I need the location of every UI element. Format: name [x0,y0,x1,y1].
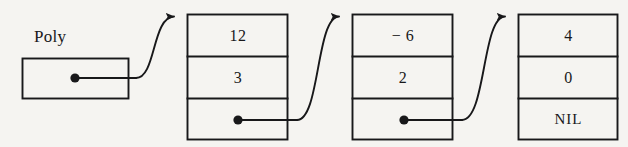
linked-list-diagram: Poly 12 3 − 6 2 4 0 NIL [0,0,628,147]
node-3-exponent: 0 [519,57,618,98]
node-2-exponent: 2 [353,57,453,98]
node-1-exponent: 3 [188,57,288,98]
head-pointer-dot [70,73,79,82]
node-3-coefficient: 4 [519,15,618,56]
node-1-coefficient: 12 [188,15,288,56]
node-2-coefficient: − 6 [353,15,453,56]
link-head-to-node-1 [70,17,174,83]
node-1-next-dot [233,115,242,124]
head-pointer-label: Poly [34,27,66,47]
node-3-next-nil-label: NIL [519,99,618,139]
node-2-next-dot [399,115,408,124]
